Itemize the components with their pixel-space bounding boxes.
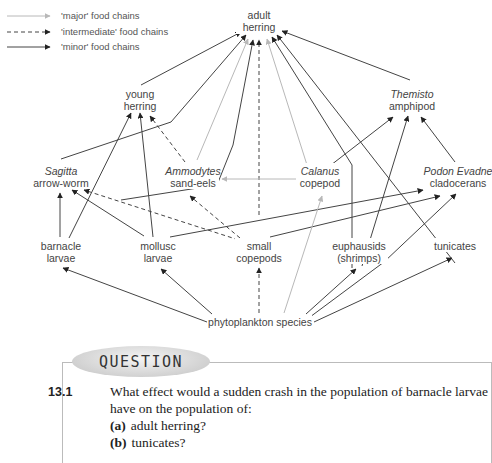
node-mollusc-larvae: mollusc larvae — [137, 238, 179, 264]
svg-text:arrow-worm: arrow-worm — [33, 177, 89, 189]
node-themisto: Themisto amphipod — [386, 86, 440, 112]
food-chain-arrows — [60, 31, 456, 322]
svg-text:copepod: copepod — [300, 177, 340, 189]
arrow-themisto-to-adult-herring — [282, 31, 410, 80]
arrow-calanus-to-adult-herring — [267, 39, 307, 165]
question-text: What effect would a sudden crash in the … — [110, 384, 488, 416]
svg-text:amphipod: amphipod — [389, 100, 435, 112]
svg-text:copepods: copepods — [236, 252, 282, 264]
question-option-a: (a)adult herring? — [110, 417, 488, 434]
node-ammodytes: Ammodytes sand-eels — [164, 163, 221, 189]
svg-text:Themisto: Themisto — [390, 88, 433, 100]
svg-text:adult: adult — [248, 9, 271, 21]
svg-text:(shrimps): (shrimps) — [337, 252, 381, 264]
node-podon: Podon Evadne cladocerans — [424, 163, 492, 189]
arrow-calanus-to-themisto — [331, 117, 393, 165]
node-small-copepods: small copepods — [235, 238, 283, 264]
svg-text:Sagitta: Sagitta — [45, 165, 78, 177]
arrow-phytoplankton-to-calanus — [284, 196, 322, 313]
arrow-mollusc-to-podon — [170, 190, 423, 237]
svg-text:euphausids: euphausids — [332, 240, 386, 252]
svg-text:phytoplankton species: phytoplankton species — [208, 316, 312, 328]
arrow-phytoplankton-to-barnacle — [63, 268, 207, 322]
nodes: adult herring young herring Themisto amp… — [33, 8, 492, 329]
arrow-mollusc-to-young-herring — [140, 113, 153, 237]
svg-text:Podon Evadne: Podon Evadne — [424, 165, 492, 177]
node-sagitta: Sagitta arrow-worm — [33, 163, 89, 189]
svg-text:larvae: larvae — [144, 252, 173, 264]
question-heading: QUESTION — [99, 353, 183, 371]
svg-text:barnacle: barnacle — [41, 240, 81, 252]
question-option-b: (b)tunicates? — [110, 434, 488, 451]
svg-text:Ammodytes: Ammodytes — [164, 165, 221, 177]
arrow-small-copepods-to-sagitta — [84, 190, 245, 242]
svg-text:'intermediate' food chains: 'intermediate' food chains — [61, 26, 168, 37]
legend-item-intermediate: 'intermediate' food chains — [7, 26, 168, 37]
svg-text:tunicates: tunicates — [434, 240, 476, 252]
arrow-podon-to-themisto — [421, 117, 455, 162]
node-phytoplankton: phytoplankton species — [208, 315, 312, 329]
svg-text:cladocerans: cladocerans — [430, 177, 487, 189]
node-euphausids: euphausids (shrimps) — [330, 238, 388, 264]
svg-text:larvae: larvae — [47, 252, 76, 264]
svg-text:'major' food chains: 'major' food chains — [61, 10, 140, 21]
svg-text:small: small — [247, 240, 272, 252]
arrow-phytoplankton-to-euphausids — [306, 269, 356, 314]
node-adult-herring: adult herring — [236, 8, 282, 34]
legend-item-major: 'major' food chains — [7, 10, 140, 21]
arrow-ammodytes-to-adult-herring — [197, 39, 248, 160]
node-tunicates: tunicates — [432, 238, 478, 252]
arrow-mollusc-to-sagitta — [72, 190, 144, 236]
node-barnacle-larvae: barnacle larvae — [40, 238, 82, 264]
node-calanus: Calanus copepod — [296, 163, 342, 189]
svg-text:Calanus: Calanus — [301, 165, 340, 177]
svg-text:herring: herring — [124, 100, 157, 112]
svg-text:'minor' food chains: 'minor' food chains — [61, 41, 140, 52]
svg-text:mollusc: mollusc — [140, 240, 176, 252]
svg-text:sand-eels: sand-eels — [170, 177, 216, 189]
question-number: 13.1 — [48, 385, 72, 399]
question-body: What effect would a sudden crash in the … — [110, 383, 488, 451]
legend: 'major' food chains 'intermediate' food … — [7, 10, 168, 52]
food-web-diagram: 'major' food chains 'intermediate' food … — [0, 0, 492, 335]
question-heading-badge: QUESTION — [72, 346, 210, 377]
legend-item-minor: 'minor' food chains — [7, 41, 140, 52]
svg-text:young: young — [126, 88, 155, 100]
node-young-herring: young herring — [120, 86, 162, 112]
arrow-phytoplankton-to-tunicates — [314, 258, 452, 322]
svg-text:herring: herring — [243, 21, 276, 33]
